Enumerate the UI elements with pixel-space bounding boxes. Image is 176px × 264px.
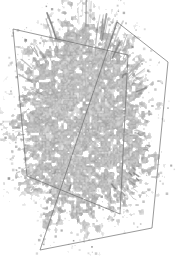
volume-canvas: [0, 0, 176, 264]
volume-rendering-figure: 3D volume rendering with two intersectin…: [0, 0, 176, 264]
